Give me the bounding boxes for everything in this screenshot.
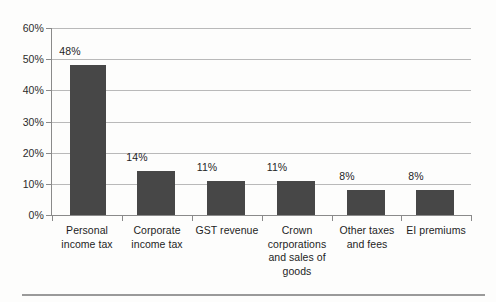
x-axis-label-line: and fees — [330, 238, 404, 252]
x-axis-tick-0 — [52, 215, 53, 221]
y-axis-label-50: 50% — [0, 53, 44, 65]
bar-value-corporate-income-tax: 14% — [117, 151, 157, 163]
y-axis-label-0: 0% — [0, 209, 44, 221]
x-axis-label-line: Other taxes — [330, 224, 404, 238]
x-axis-label-line: and sales of — [260, 251, 334, 265]
bar-ei-premiums[interactable] — [416, 190, 454, 215]
x-axis-label-corporate-income-tax: Corporate income tax — [122, 224, 192, 251]
x-axis-label-line: Crown — [260, 224, 334, 238]
plot-area — [52, 28, 471, 215]
x-axis-tick-2 — [192, 215, 193, 221]
y-axis-labels: 60% 50% 40% 30% 20% 10% 0% — [0, 0, 44, 302]
x-axis-tick-3 — [262, 215, 263, 221]
x-axis-label-ei-premiums: EI premiums — [401, 224, 471, 238]
bar-value-ei-premiums: 8% — [396, 170, 436, 182]
bar-value-personal-income-tax: 48% — [50, 45, 90, 57]
x-axis-label-line: GST revenue — [192, 224, 262, 238]
bar-series — [52, 28, 471, 215]
x-axis-label-gst-revenue: GST revenue — [192, 224, 262, 238]
x-axis-label-line: goods — [260, 265, 334, 279]
x-axis-label-crown-corporations: Crown corporations and sales of goods — [260, 224, 334, 278]
bar-value-crown-corporations: 11% — [257, 161, 297, 173]
x-axis-tick-4 — [332, 215, 333, 221]
x-axis-label-line: Personal — [52, 224, 122, 238]
bar-other-taxes-and-fees[interactable] — [347, 190, 385, 215]
x-axis-label-line: EI premiums — [401, 224, 471, 238]
x-axis-label-line: corporations — [260, 238, 334, 252]
y-axis-label-30: 30% — [0, 116, 44, 128]
bar-value-other-taxes-and-fees: 8% — [327, 170, 367, 182]
x-axis-label-other-taxes-and-fees: Other taxes and fees — [330, 224, 404, 251]
bar-personal-income-tax[interactable] — [70, 65, 106, 215]
y-axis-label-10: 10% — [0, 178, 44, 190]
chart-page: 60% 50% 40% 30% 20% 10% 0% 48% 14% — [0, 0, 496, 302]
x-axis-label-line: Corporate — [122, 224, 192, 238]
x-axis-label-personal-income-tax: Personal income tax — [52, 224, 122, 251]
y-axis-label-60: 60% — [0, 22, 44, 34]
y-axis-label-20: 20% — [0, 147, 44, 159]
bar-crown-corporations[interactable] — [277, 181, 315, 215]
x-axis-tick-6 — [471, 215, 472, 221]
x-axis-label-line: income tax — [52, 238, 122, 252]
bar-gst-revenue[interactable] — [207, 181, 245, 215]
y-axis-label-40: 40% — [0, 84, 44, 96]
x-axis-tick-5 — [401, 215, 402, 221]
bar-value-gst-revenue: 11% — [187, 161, 227, 173]
bar-corporate-income-tax[interactable] — [137, 171, 175, 215]
x-axis-tick-1 — [122, 215, 123, 221]
x-axis-label-line: income tax — [122, 238, 192, 252]
footer-divider — [22, 294, 485, 296]
